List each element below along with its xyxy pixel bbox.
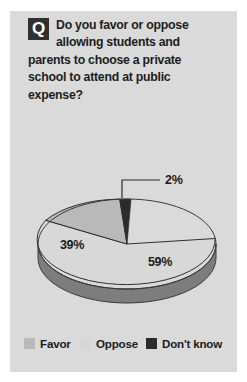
question-block: Q Do you favor or oppose allowing studen… [28,17,210,104]
legend-swatch-oppose-icon [80,338,91,349]
legend-label-favor: Favor [40,337,71,350]
chart-legend: Favor Oppose Don't know [24,334,224,350]
legend-swatch-dontknow-icon [146,338,157,349]
question-badge-icon: Q [28,18,49,40]
legend-label-oppose: Oppose [96,337,138,350]
legend-item-oppose: Oppose [80,334,138,350]
pie-chart: 2% 39% 59% [0,150,247,315]
pie-leader-line [122,180,160,198]
question-text: Do you favor or oppose allowing students… [28,17,210,104]
pie-label-oppose: 39% [60,238,84,252]
legend-item-dontknow: Don't know [146,334,222,350]
pie-label-dontknow: 2% [165,173,183,187]
legend-item-favor: Favor [24,334,71,350]
pie-chart-svg: 2% 39% 59% [0,150,247,315]
legend-swatch-favor-icon [24,338,35,349]
pie-label-favor: 59% [148,255,172,269]
legend-label-dontknow: Don't know [162,337,222,350]
poll-chart-page: Q Do you favor or oppose allowing studen… [0,0,247,382]
